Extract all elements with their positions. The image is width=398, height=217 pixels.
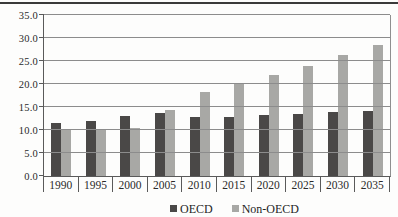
plot-area	[43, 15, 391, 177]
gridline-5.0	[44, 152, 390, 153]
bar-oecd-2015	[224, 117, 234, 176]
x-axis-label-1990: 1990	[44, 177, 79, 192]
y-axis-tick-label: 35.0	[0, 10, 38, 21]
y-tick-mark	[39, 83, 44, 84]
y-axis-tick-label: 5.0	[0, 148, 38, 159]
bar-non-oecd-1995	[96, 130, 106, 176]
gridline-15.0	[44, 106, 390, 107]
gridline-25.0	[44, 60, 390, 61]
y-axis-tick-label: 25.0	[0, 56, 38, 67]
y-axis-tick-label: 10.0	[0, 125, 38, 136]
x-axis-label-2010: 2010	[182, 177, 217, 192]
x-axis-label-1995: 1995	[79, 177, 114, 192]
figure-top-rule	[0, 2, 398, 4]
y-tick-mark	[39, 106, 44, 107]
y-tick-mark	[39, 152, 44, 153]
x-axis-label-2005: 2005	[148, 177, 183, 192]
bar-oecd-2020	[259, 115, 269, 176]
bar-chart-figure: 0.05.010.015.020.025.030.035.0 199019952…	[0, 0, 398, 217]
bar-non-oecd-2030	[338, 55, 348, 176]
x-axis-label-2020: 2020	[252, 177, 287, 192]
bar-oecd-2030	[328, 112, 338, 176]
bar-oecd-2010	[190, 117, 200, 176]
bar-non-oecd-1990	[61, 130, 71, 176]
y-tick-mark	[39, 129, 44, 130]
bar-non-oecd-2010	[200, 92, 210, 176]
x-axis-label-2030: 2030	[321, 177, 356, 192]
gridline-20.0	[44, 83, 390, 84]
x-axis-label-2035: 2035	[355, 177, 390, 192]
x-axis-label-2025: 2025	[286, 177, 321, 192]
legend-label: OECD	[180, 202, 213, 217]
y-tick-mark	[39, 175, 44, 176]
legend: OECDNon-OECD	[170, 202, 299, 217]
y-tick-mark	[39, 37, 44, 38]
legend-label: Non-OECD	[242, 202, 299, 217]
bar-non-oecd-2005	[165, 110, 175, 176]
bar-oecd-2005	[155, 113, 165, 176]
y-axis-tick-label: 20.0	[0, 79, 38, 90]
legend-swatch-icon	[170, 205, 177, 212]
y-axis-tick-label: 30.0	[0, 33, 38, 44]
y-axis-tick-label: 15.0	[0, 102, 38, 113]
gridline-30.0	[44, 37, 390, 38]
bar-oecd-2035	[363, 111, 373, 176]
bar-non-oecd-2020	[269, 75, 279, 176]
bar-oecd-2025	[293, 114, 303, 176]
legend-item-oecd: OECD	[170, 202, 213, 217]
y-tick-mark	[39, 60, 44, 61]
x-axis-label-2000: 2000	[113, 177, 148, 192]
y-axis-tick-label: 0.0	[0, 171, 38, 182]
x-axis-label-2015: 2015	[217, 177, 252, 192]
bar-oecd-2000	[120, 116, 130, 176]
y-axis-labels: 0.05.010.015.020.025.030.035.0	[0, 0, 38, 217]
gridline-10.0	[44, 129, 390, 130]
x-axis-labels: 1990199520002005201020152020202520302035	[43, 177, 390, 192]
bar-oecd-1990	[51, 123, 61, 176]
y-tick-mark	[39, 14, 44, 15]
legend-swatch-icon	[232, 205, 239, 212]
bar-non-oecd-2035	[373, 45, 383, 176]
legend-item-non-oecd: Non-OECD	[232, 202, 299, 217]
gridline-35.0	[44, 14, 390, 15]
